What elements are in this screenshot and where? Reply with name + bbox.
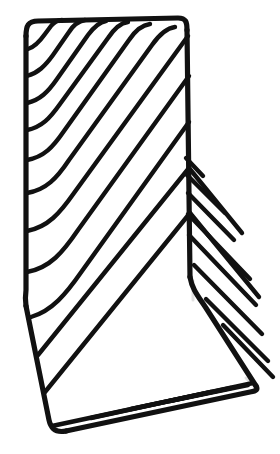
image-canvas: Black powder-coated wire bookend with di… bbox=[0, 0, 280, 454]
frame-segment-left-edge bbox=[25, 36, 26, 306]
wire-rack-illustration bbox=[0, 0, 280, 454]
frame-segment-right-edge-upper bbox=[187, 30, 190, 277]
